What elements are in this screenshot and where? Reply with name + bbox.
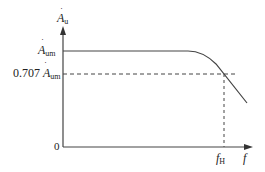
- cutoff-frequency-label: fH: [216, 152, 225, 166]
- y-axis-accent: ˙: [60, 7, 63, 16]
- passband-gain-subscript: um: [45, 49, 55, 58]
- response-curve: [63, 51, 247, 103]
- y-axis-subscript: u: [64, 17, 68, 26]
- cutoff-gain-accent: ˙: [44, 61, 47, 70]
- origin-label: 0: [54, 141, 60, 152]
- cutoff-gain-coefficient: 0.707: [13, 66, 40, 80]
- x-axis-arrow-icon: [244, 144, 253, 150]
- cutoff-gain-subscript: um: [50, 72, 60, 81]
- diagram-graphics: [0, 0, 265, 172]
- y-axis-arrow-icon: [60, 26, 66, 35]
- x-axis-label: f: [243, 152, 246, 164]
- frequency-response-diagram: Au ˙ Aum ˙ 0.707 Aum ˙ 0 fH f: [0, 0, 265, 172]
- cutoff-frequency-subscript: H: [219, 157, 225, 166]
- passband-gain-accent: ˙: [41, 38, 44, 47]
- cutoff-gain-label: 0.707 Aum: [13, 67, 61, 81]
